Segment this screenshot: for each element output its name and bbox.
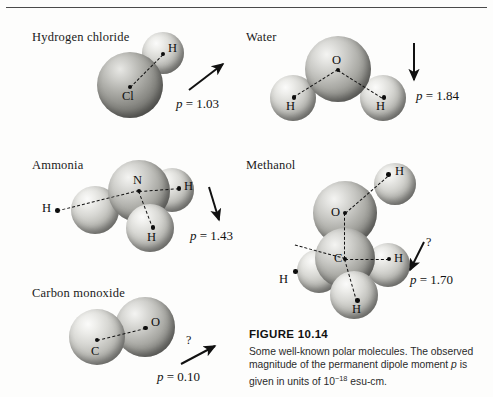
dipole-magnitude: 0.10: [177, 369, 200, 384]
dipole-equals: =: [417, 272, 431, 287]
atom-label-h-hydroxyl: H: [395, 164, 404, 179]
uncertainty-marker-co: ?: [186, 333, 191, 348]
dipole-value-methanol: p = 1.70: [410, 272, 453, 288]
dipole-magnitude: 1.70: [430, 272, 453, 287]
atom-label-cl: Cl: [122, 89, 134, 104]
atom-label-o: O: [331, 205, 340, 220]
dipole-arrow-hcl: [186, 58, 230, 94]
atom-label-h-bottom: H: [147, 230, 156, 245]
atom-label-h-left: H: [42, 201, 51, 216]
dipole-arrow-water: [404, 40, 428, 88]
dipole-value-ammonia: p = 1.43: [190, 228, 233, 244]
bond-node-o: [143, 326, 148, 331]
bond-node-h-right: [177, 186, 182, 191]
atom-label-c: C: [91, 344, 99, 359]
dipole-equals: =: [183, 96, 197, 111]
atom-label-h-right: H: [376, 99, 385, 114]
dipole-equals: =: [423, 88, 437, 103]
bond-node-h-hydroxyl: [386, 172, 391, 177]
atom-label-h-right: H: [184, 179, 193, 194]
dipole-equals: =: [164, 369, 178, 384]
dipole-value-hcl: p = 1.03: [176, 96, 219, 112]
caption-text-part3: esu-cm.: [347, 376, 386, 387]
bond-node-h-left: [55, 208, 60, 213]
bond-c-h-right: [345, 259, 389, 260]
molecule-label-methanol: Methanol: [246, 158, 296, 173]
dipole-equals: =: [197, 228, 211, 243]
atom-label-h-right: H: [394, 251, 403, 266]
top-rule: [6, 7, 487, 8]
atom-label-o: O: [151, 315, 160, 330]
atom-label-c: C: [334, 251, 342, 266]
molecule-label-carbon-monoxide: Carbon monoxide: [32, 286, 125, 301]
molecule-label-hydrogen-chloride: Hydrogen chloride: [32, 30, 129, 45]
dipole-magnitude: 1.03: [196, 96, 219, 111]
caption-text-part1: Some well-known polar molecules. The obs…: [249, 346, 473, 370]
figure-page: Hydrogen chloride Cl H p = 1.03 Water: [0, 0, 493, 397]
atom-label-n: N: [133, 173, 142, 188]
molecule-label-water: Water: [246, 30, 277, 45]
dipole-magnitude: 1.43: [210, 228, 233, 243]
bond-o-c: [344, 213, 345, 259]
atom-label-h-left: H: [279, 272, 288, 287]
atom-label-h-bottom: H: [352, 302, 361, 317]
dipole-magnitude: 1.84: [436, 88, 459, 103]
uncertainty-marker-methanol: ?: [426, 235, 431, 250]
figure-number: FIGURE 10.14: [249, 328, 328, 340]
dipole-arrow-ammonia: [203, 183, 233, 229]
atom-label-h: H: [168, 41, 177, 56]
caption-exponent: −18: [335, 374, 348, 383]
atom-label-h-left: H: [286, 99, 295, 114]
figure-caption: Some well-known polar molecules. The obs…: [249, 345, 487, 389]
bond-node-h-bottom: [151, 225, 156, 230]
dipole-value-co: p = 0.10: [157, 369, 200, 385]
atom-label-o: O: [332, 53, 341, 68]
bond-node-h-left: [293, 269, 298, 274]
dipole-value-water: p = 1.84: [416, 88, 459, 104]
molecule-label-ammonia: Ammonia: [32, 158, 83, 173]
